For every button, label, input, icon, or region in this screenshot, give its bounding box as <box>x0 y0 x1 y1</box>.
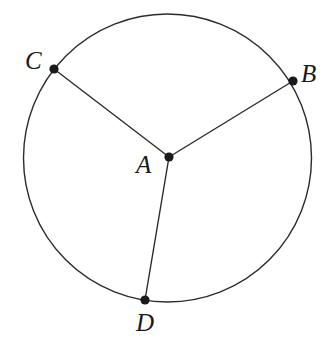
radius-segment-ad <box>145 157 169 300</box>
point-label-b: B <box>301 61 316 86</box>
radius-segment-ab <box>169 81 293 157</box>
point-label-c: C <box>25 48 42 73</box>
point-dot-a <box>164 152 173 161</box>
point-dot-b <box>288 76 297 85</box>
radius-segment-ac <box>54 69 169 157</box>
point-dot-d <box>140 295 149 304</box>
point-label-d: D <box>136 310 154 335</box>
point-dot-c <box>49 64 58 73</box>
point-label-a: A <box>136 152 151 177</box>
figure-canvas <box>0 0 331 350</box>
geometry-figure: A B C D <box>0 0 331 350</box>
